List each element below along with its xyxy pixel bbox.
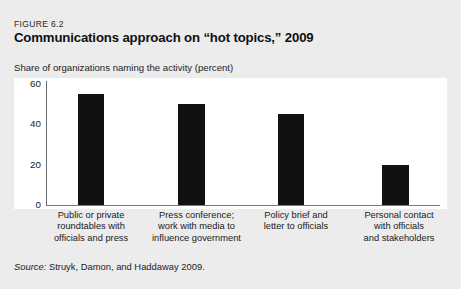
- category-line: officials and press: [38, 233, 144, 244]
- y-tick-40: 40: [3, 118, 41, 130]
- category-line: and stakeholders: [347, 233, 451, 244]
- category-label-personal-contact: Personal contact with officials and stak…: [347, 210, 451, 244]
- source-text: Struyk, Damon, and Haddaway 2009.: [46, 261, 204, 272]
- figure-subtitle: Share of organizations naming the activi…: [14, 62, 233, 73]
- category-line: Public or private: [38, 210, 144, 221]
- bar-public-roundtables: [78, 94, 104, 205]
- category-line: roundtables with: [38, 221, 144, 232]
- y-tick-label: 0: [36, 199, 41, 210]
- source-label: Source:: [14, 261, 46, 272]
- figure-container: FIGURE 6.2 Communications approach on “h…: [0, 0, 461, 289]
- y-tick-20: 20: [3, 159, 41, 171]
- category-line: Policy brief and: [246, 210, 346, 221]
- bar-press-conference: [178, 104, 205, 205]
- source-note: Source: Struyk, Damon, and Haddaway 2009…: [14, 261, 205, 272]
- category-line: letter to officials: [246, 221, 346, 232]
- y-tick-0: 0: [3, 199, 41, 211]
- y-tick-label: 40: [30, 118, 41, 129]
- category-line: Personal contact: [347, 210, 451, 221]
- bars-layer: [46, 80, 440, 205]
- y-tick-label: 60: [30, 78, 41, 89]
- bar-policy-brief: [278, 114, 304, 205]
- y-tick-60: 60: [3, 78, 41, 90]
- category-label-press-conference: Press conference; work with media to inf…: [141, 210, 252, 244]
- category-line: with officials: [347, 221, 451, 232]
- figure-number: FIGURE 6.2: [14, 19, 64, 29]
- bar-personal-contact: [382, 165, 409, 205]
- category-line: work with media to: [141, 221, 252, 232]
- category-line: Press conference;: [141, 210, 252, 221]
- category-label-policy-brief: Policy brief and letter to officials: [246, 210, 346, 233]
- category-line: influence government: [141, 233, 252, 244]
- y-tick-label: 20: [30, 159, 41, 170]
- figure-title: Communications approach on “hot topics,”…: [14, 30, 314, 45]
- category-label-public-roundtables: Public or private roundtables with offic…: [38, 210, 144, 244]
